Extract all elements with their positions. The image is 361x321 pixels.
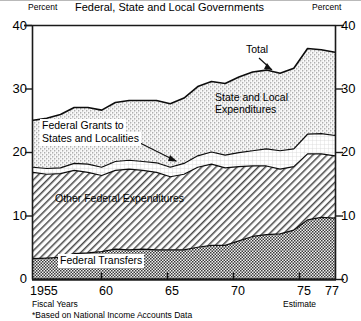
y-ticks-left xyxy=(24,26,32,217)
annotation-state-local-2: Expenditures xyxy=(215,104,276,116)
annotation-state-local-1: State and Local xyxy=(215,92,288,104)
chart-root: Percent Percent Federal, State and Local… xyxy=(0,0,361,321)
annotation-total: Total xyxy=(246,44,268,56)
annotation-grants-1: Federal Grants to xyxy=(40,119,126,133)
annotation-federal-transfers: Federal Transfers xyxy=(58,254,144,268)
chart-plot xyxy=(0,0,361,321)
y-ticks-right xyxy=(336,26,344,280)
annotation-grants-2: States and Localities xyxy=(40,132,141,146)
annotation-other-federal: Other Federal Expenditures xyxy=(55,193,184,205)
